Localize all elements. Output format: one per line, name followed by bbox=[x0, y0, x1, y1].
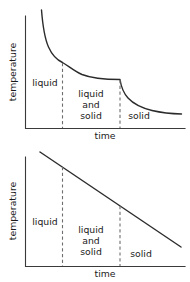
region-label-mixed-line1-top: liquid bbox=[78, 88, 104, 99]
y-axis-label-bottom: temperature bbox=[7, 182, 18, 241]
chart-cooling-curve-mixture: temperature time liquid liquid and solid… bbox=[0, 141, 190, 282]
cooling-curve-path bbox=[40, 152, 181, 247]
region-label-mixed-line1-bottom: liquid bbox=[78, 224, 104, 235]
region-label-solid-top: solid bbox=[128, 110, 150, 121]
chart-bottom-canvas: temperature time liquid liquid and solid… bbox=[0, 141, 190, 282]
region-label-solid-bottom: solid bbox=[130, 248, 152, 259]
region-label-mixed-line3-bottom: solid bbox=[80, 246, 102, 257]
region-label-mixed-line2-top: and bbox=[82, 99, 100, 110]
region-label-mixed-line2-bottom: and bbox=[82, 235, 100, 246]
y-axis-label-top: temperature bbox=[7, 43, 18, 102]
axis-lines bbox=[26, 157, 186, 267]
region-label-mixed-line3-top: solid bbox=[80, 110, 102, 121]
region-label-liquid-bottom: liquid bbox=[32, 216, 58, 227]
cooling-curves-figure: temperature time liquid liquid and solid… bbox=[0, 0, 190, 282]
region-label-liquid-top: liquid bbox=[32, 77, 58, 88]
chart-cooling-curve-pure-substance: temperature time liquid liquid and solid… bbox=[0, 0, 190, 141]
chart-top-canvas: temperature time liquid liquid and solid… bbox=[0, 0, 190, 141]
x-axis-label-bottom: time bbox=[94, 268, 115, 279]
x-axis-label-top: time bbox=[94, 130, 115, 141]
